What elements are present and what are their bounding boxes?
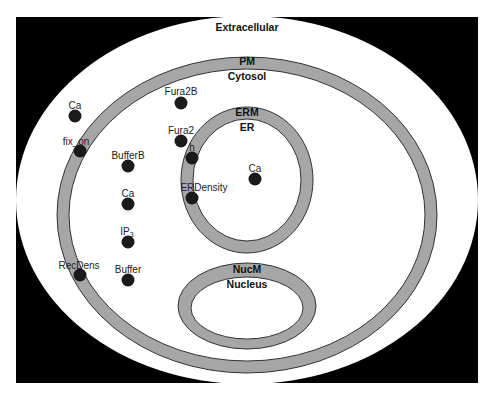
pm-label: PM [239,55,255,67]
extracellular-label: Extracellular [215,21,278,33]
cytosol-label: Cytosol [228,70,267,82]
er-compartment[interactable] [193,119,301,241]
species-label: Ca [122,188,135,199]
nucleus-label: Nucleus [227,278,268,290]
species-label: ERDensity [180,182,227,193]
compartment-diagram: Extracellular PM Cytosol ERM ER NucM Nuc… [0,0,494,396]
species-label: RecDens [58,260,99,271]
species-label: Ca [69,100,82,111]
species-label: Fura2B [165,86,198,97]
species-label: Fura2 [168,125,195,136]
species-label: fix_on [63,136,90,147]
nucm-label: NucM [233,263,262,275]
species-label: Ca [249,163,262,174]
species-label: Buffer [115,264,142,275]
erm-label: ERM [235,106,259,118]
species-label: BufferB [111,150,144,161]
species-label: h [189,142,195,153]
er-label: ER [240,121,255,133]
